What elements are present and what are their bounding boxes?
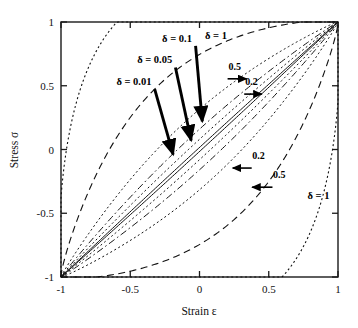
label-0p5-lower: 0.5 (273, 169, 286, 180)
label-delta-0p01: δ = 0.01 (116, 76, 151, 87)
y-tick-label: -1 (45, 271, 54, 283)
label-delta-0p1: δ = 0.1 (162, 33, 192, 44)
y-tick-label: 1 (49, 16, 55, 28)
label-0p2-lower: 0.2 (252, 150, 265, 161)
label-delta-0p05: δ = 0.05 (137, 54, 172, 65)
label-delta-1-top: δ = 1 (205, 30, 227, 41)
chart-figure: δ = 0.1δ = 0.05δ = 0.01δ = 10.50.20.20.5… (0, 0, 358, 328)
x-tick-label: -1 (56, 283, 65, 295)
y-axis-title: Stress σ (8, 131, 20, 168)
label-0p5-upper: 0.5 (229, 61, 242, 72)
label-0p2-upper: 0.2 (245, 76, 258, 87)
y-tick-label: -0.5 (37, 207, 55, 219)
y-tick-label: 0.5 (40, 80, 54, 92)
label-delta-1-bottom: δ = 1 (308, 190, 330, 201)
x-tick-label: -0.5 (122, 283, 140, 295)
x-tick-label: 0.5 (262, 283, 276, 295)
x-tick-label: 1 (335, 283, 341, 295)
x-axis-title: Strain ε (181, 305, 216, 317)
stress-strain-hysteresis-plot: δ = 0.1δ = 0.05δ = 0.01δ = 10.50.20.20.5… (0, 0, 358, 328)
x-tick-label: 0 (197, 283, 203, 295)
y-tick-label: 0 (49, 144, 55, 156)
